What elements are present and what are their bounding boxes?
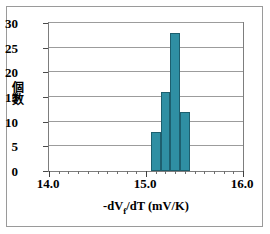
x-tick-minor bbox=[165, 171, 166, 174]
x-tick-minor bbox=[117, 171, 118, 174]
histogram-bar bbox=[170, 33, 180, 171]
y-tick-label: 30 bbox=[0, 17, 18, 30]
gridline bbox=[49, 47, 243, 48]
x-tick-label: 15.0 bbox=[121, 177, 169, 190]
gridline bbox=[49, 121, 243, 122]
x-tick-minor bbox=[175, 171, 176, 174]
gridline bbox=[49, 22, 243, 23]
x-axis-title: -dVf/dT (mV/K) bbox=[48, 199, 244, 216]
x-tick-label: 14.0 bbox=[24, 177, 72, 190]
x-axis-title-prefix: -dV bbox=[103, 199, 123, 213]
histogram-bar bbox=[161, 92, 171, 171]
x-tick-minor bbox=[204, 171, 205, 174]
gridline bbox=[49, 71, 243, 72]
gridline bbox=[49, 96, 243, 97]
x-tick-minor bbox=[107, 171, 108, 174]
x-tick-minor bbox=[233, 171, 234, 174]
y-tick-label: 0 bbox=[0, 165, 18, 178]
x-tick-minor bbox=[224, 171, 225, 174]
gridline bbox=[49, 145, 243, 146]
y-tick-label: 5 bbox=[0, 140, 18, 153]
y-tick-label: 15 bbox=[0, 91, 18, 104]
x-tick-minor bbox=[88, 171, 89, 174]
x-tick-minor bbox=[127, 171, 128, 174]
x-tick-minor bbox=[185, 171, 186, 174]
histogram-figure: 個 数 051015202530 -dVf/dT (mV/K) 14.015.0… bbox=[0, 0, 270, 234]
plot-area bbox=[48, 22, 244, 172]
x-tick-minor bbox=[214, 171, 215, 174]
x-tick-minor bbox=[68, 171, 69, 174]
x-tick-minor bbox=[156, 171, 157, 174]
y-tick-label: 10 bbox=[0, 116, 18, 129]
x-tick-minor bbox=[136, 171, 137, 174]
y-tick-label: 25 bbox=[0, 42, 18, 55]
x-tick-minor bbox=[98, 171, 99, 174]
y-tick-label: 20 bbox=[0, 66, 18, 79]
histogram-bar bbox=[180, 112, 190, 171]
x-axis-title-suffix: /dT (mV/K) bbox=[126, 199, 189, 213]
x-tick-minor bbox=[59, 171, 60, 174]
histogram-bar bbox=[151, 132, 161, 171]
x-tick-minor bbox=[195, 171, 196, 174]
x-tick-label: 16.0 bbox=[218, 177, 266, 190]
x-tick-minor bbox=[78, 171, 79, 174]
